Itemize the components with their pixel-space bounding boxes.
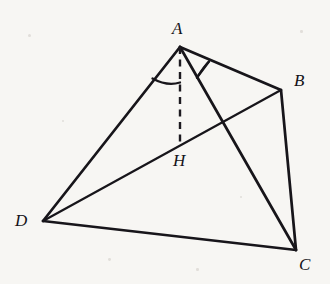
vertex-label-H: H bbox=[173, 152, 185, 169]
vertex-label-B: B bbox=[294, 72, 304, 89]
geometry-canvas bbox=[0, 0, 330, 284]
edge-DB bbox=[43, 90, 281, 221]
geometry-figure: A B C D H bbox=[0, 0, 330, 284]
vertex-label-A: A bbox=[172, 20, 182, 37]
edge-AD bbox=[43, 47, 180, 221]
paper-speck bbox=[196, 268, 199, 271]
vertex-label-D: D bbox=[15, 212, 27, 229]
edge-DC bbox=[43, 221, 296, 250]
vertex-label-C: C bbox=[299, 256, 310, 273]
paper-speck bbox=[108, 258, 111, 261]
angle-arc-DAH bbox=[153, 79, 181, 84]
paper-speck bbox=[300, 30, 303, 33]
edge-AB bbox=[180, 47, 281, 90]
angle-arc-CAB-chord bbox=[197, 62, 209, 78]
